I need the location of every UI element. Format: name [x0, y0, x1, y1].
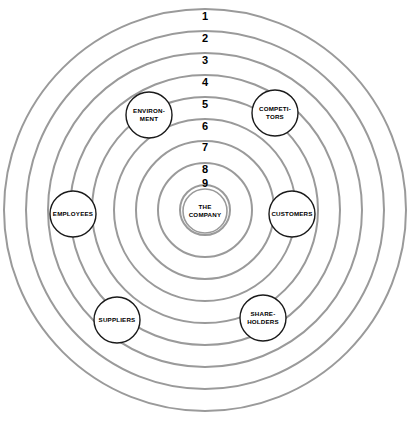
ring-number-label-3: 3: [202, 54, 208, 66]
stakeholder-environment: ENVIRON-MENT: [126, 92, 172, 138]
ring-number-label-6: 6: [202, 120, 208, 132]
ring-number-label-2: 2: [202, 32, 208, 44]
center-node-label-the-company: COMPANY: [189, 211, 222, 218]
stakeholder-label-competitors: TORS: [266, 113, 284, 120]
stakeholder-employees: EMPLOYEES: [50, 191, 96, 237]
ring-number-label-4: 4: [202, 76, 209, 88]
stakeholder-customers: CUSTOMERS: [269, 191, 315, 237]
stakeholder-label-suppliers: SUPPLIERS: [99, 316, 136, 323]
concentric-circles-canvas: 123456789 THECOMPANY ENVIRON-MENTCOMPETI…: [0, 0, 420, 427]
ring-number-label-1: 1: [202, 10, 208, 22]
stakeholder-shareholders: SHARE-HOLDERS: [240, 295, 286, 341]
stakeholder-competitors: COMPETI-TORS: [252, 90, 298, 136]
stakeholder-label-shareholders: HOLDERS: [247, 318, 279, 325]
stakeholder-suppliers: SUPPLIERS: [94, 297, 140, 343]
stakeholder-nodes: ENVIRON-MENTCOMPETI-TORSEMPLOYEESCUSTOME…: [50, 90, 315, 343]
ring-number-label-5: 5: [202, 98, 208, 110]
center-node-label-the-company: THE: [199, 203, 212, 210]
ring-number-label-7: 7: [202, 141, 208, 153]
stakeholder-diagram: 123456789 THECOMPANY ENVIRON-MENTCOMPETI…: [0, 0, 420, 427]
stakeholder-label-employees: EMPLOYEES: [53, 210, 93, 217]
center-node-the-company: THECOMPANY: [183, 189, 227, 233]
stakeholder-label-environment: MENT: [140, 115, 158, 122]
stakeholder-label-environment: ENVIRON-: [133, 107, 165, 114]
stakeholder-label-competitors: COMPETI-: [259, 105, 291, 112]
stakeholder-label-shareholders: SHARE-: [251, 310, 276, 317]
ring-number-label-9: 9: [202, 177, 208, 189]
ring-number-labels: 123456789: [202, 10, 209, 189]
center-node-the-company: THECOMPANY: [183, 189, 227, 233]
ring-number-label-8: 8: [202, 163, 208, 175]
stakeholder-label-customers: CUSTOMERS: [271, 210, 312, 217]
